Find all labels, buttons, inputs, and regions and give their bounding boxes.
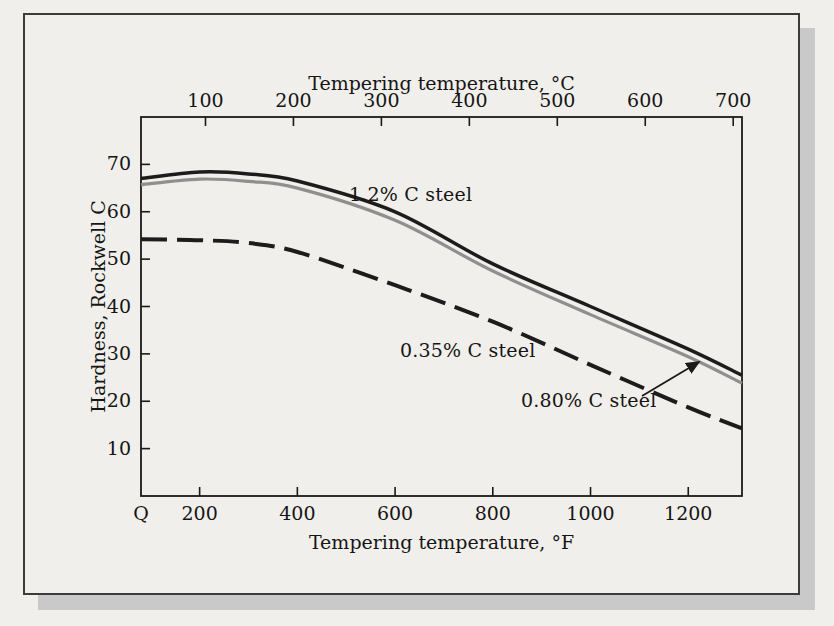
bottom-axis-title: Tempering temperature, °F — [309, 531, 574, 553]
left-tick-label-30: 30 — [107, 342, 131, 364]
top-tick-label-700: 700 — [715, 89, 751, 111]
top-tick-label-600: 600 — [627, 89, 663, 111]
tempering-hardness-chart: 1002003004005006007002004006008001000120… — [25, 15, 798, 593]
left-tick-label-20: 20 — [107, 389, 131, 411]
series-label-0-35-c-steel: 0.35% C steel — [400, 339, 536, 361]
bottom-origin-label-q: Q — [133, 502, 149, 524]
bottom-tick-label-1200: 1200 — [664, 502, 712, 524]
left-tick-label-70: 70 — [107, 152, 131, 174]
bottom-tick-label-200: 200 — [182, 502, 218, 524]
top-tick-label-200: 200 — [275, 89, 311, 111]
figure-frame: 1002003004005006007002004006008001000120… — [23, 13, 800, 595]
left-tick-label-10: 10 — [107, 437, 131, 459]
scanned-figure-page: 1002003004005006007002004006008001000120… — [0, 0, 834, 626]
bottom-tick-label-400: 400 — [279, 502, 315, 524]
y-axis-title: Hardness, Rockwell C — [87, 200, 109, 412]
left-tick-label-40: 40 — [107, 295, 131, 317]
series-label-1-2-c-steel: 1.2% C steel — [349, 183, 472, 205]
bottom-tick-label-1000: 1000 — [566, 502, 614, 524]
bottom-tick-label-600: 600 — [377, 502, 413, 524]
left-tick-label-50: 50 — [107, 247, 131, 269]
bottom-tick-label-800: 800 — [475, 502, 511, 524]
top-axis-title: Tempering temperature, °C — [308, 72, 575, 94]
series-label-0-80-c-steel: 0.80% C steel — [521, 389, 657, 411]
top-tick-label-100: 100 — [187, 89, 223, 111]
left-tick-label-60: 60 — [107, 200, 131, 222]
